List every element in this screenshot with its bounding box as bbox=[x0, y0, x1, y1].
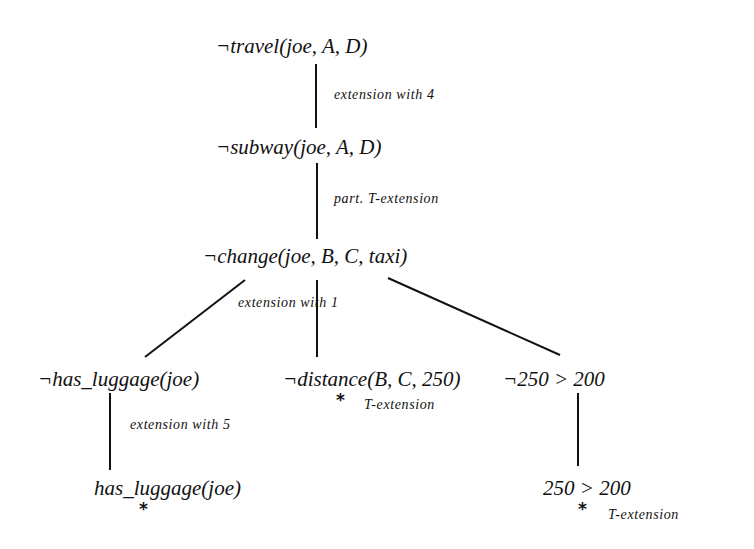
edge-label-extension-with-1: extension with 1 bbox=[238, 296, 339, 310]
node-not-has-luggage: ¬has_luggage(joe) bbox=[38, 369, 199, 390]
closed-marker-250-gt-200: * bbox=[578, 501, 587, 518]
t-extension-label-250-gt-200: T-extension bbox=[608, 508, 679, 522]
node-not-travel: ¬travel(joe, A, D) bbox=[216, 36, 367, 57]
edge-label-part-t-extension: part. T-extension bbox=[334, 192, 439, 206]
node-has-luggage: has_luggage(joe) bbox=[94, 478, 241, 499]
edge-layer bbox=[0, 0, 754, 549]
edge-label-extension-with-4: extension with 4 bbox=[334, 88, 435, 102]
edge-n3-n4 bbox=[145, 280, 245, 357]
closed-marker-distance: * bbox=[336, 392, 345, 409]
edge-label-extension-with-5: extension with 5 bbox=[130, 418, 231, 432]
node-not-change: ¬change(joe, B, C, taxi) bbox=[203, 246, 407, 267]
node-not-distance: ¬distance(B, C, 250) bbox=[283, 369, 460, 390]
node-not-subway: ¬subway(joe, A, D) bbox=[216, 137, 381, 158]
edge-n3-n6 bbox=[388, 278, 560, 355]
node-250-gt-200: 250 > 200 bbox=[543, 478, 631, 499]
node-not-250-gt-200: ¬250 > 200 bbox=[503, 369, 605, 390]
closed-marker-has-luggage: * bbox=[139, 501, 148, 518]
t-extension-label-distance: T-extension bbox=[364, 398, 435, 412]
